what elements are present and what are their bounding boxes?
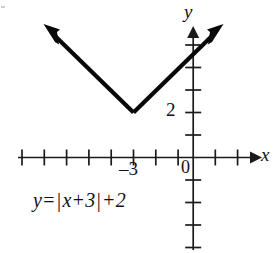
curve-right-arrowhead — [207, 24, 224, 45]
equation-outer-plus: + — [102, 189, 116, 211]
absolute-value-graph-figure: y x 2 0 –3 y=|x+3|+2 — [0, 0, 274, 253]
y-axis-label: y — [184, 2, 192, 21]
x-axis-label: x — [261, 145, 269, 164]
coordinate-plane-svg — [0, 0, 274, 253]
equation-outer-constant: 2 — [116, 189, 126, 211]
x-axis-group — [18, 150, 262, 166]
x-tick-label-neg-3: –3 — [119, 159, 138, 178]
equation-label: y=|x+3|+2 — [33, 190, 126, 210]
equation-inner-plus: + — [72, 189, 86, 211]
y-axis-arrowhead — [187, 26, 199, 38]
curve-left-branch — [53, 34, 134, 113]
equation-equals: = — [42, 189, 56, 211]
equation-lhs: y — [33, 189, 42, 211]
equation-inner-variable: x — [62, 189, 71, 211]
equation-inner-constant: 3 — [85, 189, 95, 211]
y-tick-label-2: 2 — [166, 100, 176, 119]
origin-label: 0 — [181, 158, 190, 176]
curve-left-arrowhead — [44, 24, 61, 45]
